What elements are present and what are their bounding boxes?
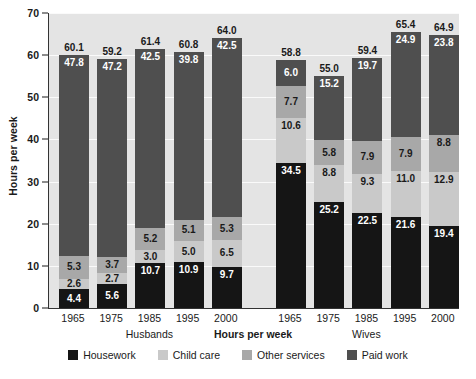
bar-total-label: 55.0 [319,63,338,74]
bar-segment-other-services[interactable]: 8.8 [429,135,459,172]
y-axis-tick-40: 40 [27,133,39,145]
bar-segment-housework[interactable]: 5.6 [97,284,127,308]
bar-segment-child-care[interactable]: 12.9 [429,172,459,226]
bar-column[interactable]: 19.77.99.322.559.4 [352,58,382,308]
bar-segment-other-services[interactable]: 3.7 [97,257,127,273]
bar-segment-child-care[interactable]: 3.0 [135,250,165,263]
bar-segment-child-care[interactable]: 2.6 [59,279,89,290]
stacked-bar-chart: Hours per week 010203040506070 47.85.32.… [0,0,476,379]
bar-segment-housework[interactable]: 4.4 [59,289,89,308]
bar-segment-child-care[interactable]: 8.8 [314,165,344,202]
bar-segment-paid-work[interactable]: 47.2 [97,59,127,258]
x-axis-tick-2000-wives: 2000 [431,312,454,324]
bar-column[interactable]: 42.55.36.59.764.0 [212,38,242,308]
bar-segment-child-care[interactable]: 11.0 [391,171,421,217]
bar-total-label: 65.4 [396,19,415,30]
bar-segment-paid-work[interactable]: 6.0 [276,60,306,85]
bar-total-label: 59.2 [102,46,121,57]
bar-segment-housework[interactable]: 19.4 [429,226,459,308]
bar-column[interactable]: 15.25.88.825.255.0 [314,76,344,308]
segment-value-label: 10.6 [281,121,300,131]
bar-segment-other-services[interactable]: 5.3 [59,256,89,278]
bar-segment-child-care[interactable]: 2.7 [97,273,127,284]
bar-segment-other-services[interactable]: 7.9 [352,141,382,174]
segment-value-label: 34.5 [281,166,300,176]
legend-swatch-icon [347,350,357,360]
y-axis-tick-60: 60 [27,49,39,61]
bar-segment-paid-work[interactable]: 24.9 [391,32,421,137]
bar-segment-other-services[interactable]: 7.9 [391,137,421,170]
bar-total-label: 64.0 [217,25,236,36]
bar-segment-paid-work[interactable]: 39.8 [174,52,204,220]
segment-value-label: 22.5 [358,216,377,226]
segment-value-label: 47.8 [64,58,83,68]
segment-value-label: 5.0 [182,247,196,257]
segment-value-label: 24.9 [396,35,415,45]
bar-segment-child-care[interactable]: 9.3 [352,174,382,213]
x-axis-tick-1965-husbands: 1965 [61,312,84,324]
bar-segment-housework[interactable]: 9.7 [212,267,242,308]
segment-value-label: 47.2 [102,62,121,72]
bars-layer: 47.85.32.64.460.147.23.72.75.659.242.55.… [49,13,459,308]
segment-value-label: 21.6 [396,220,415,230]
bar-column[interactable]: 47.23.72.75.659.2 [97,59,127,308]
segment-value-label: 7.7 [284,97,298,107]
y-axis-tick-20: 20 [27,218,39,230]
bar-segment-housework[interactable]: 10.7 [135,263,165,308]
segment-value-label: 6.5 [220,248,234,258]
segment-value-label: 2.6 [67,279,81,289]
bar-segment-paid-work[interactable]: 42.5 [212,38,242,217]
bar-segment-child-care[interactable]: 6.5 [212,240,242,267]
bar-segment-other-services[interactable]: 5.8 [314,140,344,164]
bar-segment-paid-work[interactable]: 19.7 [352,58,382,141]
legend-label: Housework [83,349,136,361]
x-axis-tick-1985-wives: 1985 [355,312,378,324]
bar-segment-paid-work[interactable]: 42.5 [135,49,165,228]
plot-area: 47.85.32.64.460.147.23.72.75.659.242.55.… [48,13,459,309]
bar-segment-housework[interactable]: 22.5 [352,213,382,308]
bar-segment-housework[interactable]: 21.6 [391,217,421,308]
segment-value-label: 7.9 [399,149,413,159]
segment-value-label: 6.0 [284,68,298,78]
segment-value-label: 42.5 [141,52,160,62]
bar-segment-housework[interactable]: 25.2 [314,202,344,308]
segment-value-label: 11.0 [396,174,415,184]
segment-value-label: 12.9 [434,175,453,185]
x-axis-tick-1995-husbands: 1995 [176,312,199,324]
bar-segment-child-care[interactable]: 10.6 [276,118,306,163]
bar-segment-paid-work[interactable]: 23.8 [429,35,459,135]
bar-column[interactable]: 6.07.710.634.558.8 [276,60,306,308]
x-axis-tick-1995-wives: 1995 [393,312,416,324]
segment-value-label: 10.7 [141,266,160,276]
bar-segment-other-services[interactable]: 5.3 [212,217,242,239]
bar-segment-paid-work[interactable]: 15.2 [314,76,344,140]
bar-segment-child-care[interactable]: 5.0 [174,241,204,262]
bar-total-label: 61.4 [141,36,160,47]
bar-column[interactable]: 24.97.911.021.665.4 [391,32,421,308]
segment-value-label: 7.9 [360,152,374,162]
legend-item-other-services[interactable]: Other services [242,349,325,361]
bar-total-label: 64.9 [434,22,453,33]
bar-segment-other-services[interactable]: 5.1 [174,220,204,241]
legend-swatch-icon [68,350,78,360]
bar-segment-housework[interactable]: 34.5 [276,163,306,308]
segment-value-label: 9.3 [360,177,374,187]
y-axis-tick-10: 10 [27,260,39,272]
bar-total-label: 60.1 [64,42,83,53]
legend-label: Child care [173,349,220,361]
bar-segment-other-services[interactable]: 5.2 [135,228,165,250]
bar-column[interactable]: 42.55.23.010.761.4 [135,49,165,308]
bar-column[interactable]: 47.85.32.64.460.1 [59,55,89,308]
segment-value-label: 10.9 [179,265,198,275]
bar-column[interactable]: 39.85.15.010.960.8 [174,52,204,308]
legend-label: Paid work [362,349,408,361]
legend-item-child-care[interactable]: Child care [158,349,220,361]
bar-segment-other-services[interactable]: 7.7 [276,86,306,118]
legend-item-housework[interactable]: Housework [68,349,136,361]
bar-segment-paid-work[interactable]: 47.8 [59,55,89,256]
chart-legend: HouseworkChild careOther servicesPaid wo… [0,349,476,361]
bar-segment-housework[interactable]: 10.9 [174,262,204,308]
bar-column[interactable]: 23.88.812.919.464.9 [429,35,459,308]
legend-item-paid-work[interactable]: Paid work [347,349,408,361]
x-axis-tick-labels: 1965197519851995200019651975198519952000… [48,310,458,330]
